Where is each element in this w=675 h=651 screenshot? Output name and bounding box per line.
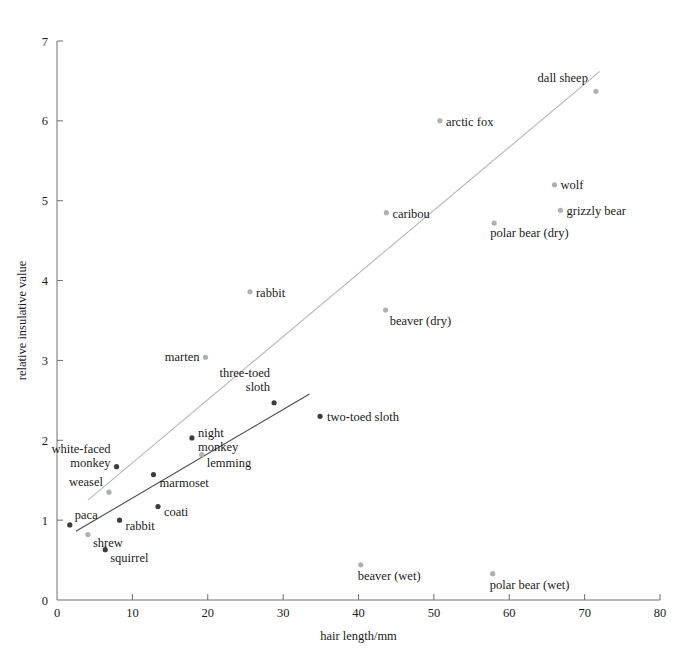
point-label: beaver (wet)	[358, 569, 421, 583]
y-tick-label: 4	[42, 274, 49, 288]
data-point	[67, 522, 72, 527]
scatter-chart: 0102030405060708001234567hair length/mmr…	[0, 0, 675, 651]
point-label: three-toedsloth	[219, 366, 270, 394]
x-tick-label: 10	[126, 606, 139, 620]
y-tick-label: 5	[42, 194, 48, 208]
point-label-line: wolf	[560, 178, 584, 192]
y-tick-label: 7	[42, 35, 48, 49]
point-label: coati	[164, 505, 189, 519]
y-tick-label: 1	[42, 514, 48, 528]
point-label: wolf	[560, 178, 584, 192]
point-label-line: rabbit	[256, 286, 286, 300]
x-axis-title: hair length/mm	[320, 629, 397, 643]
data-point	[151, 472, 156, 477]
x-tick-label: 20	[202, 606, 215, 620]
point-label: squirrel	[110, 551, 149, 565]
point-label: two-toed sloth	[327, 410, 400, 424]
point-label: polar bear (dry)	[490, 226, 568, 240]
point-label: marten	[165, 350, 200, 364]
data-point	[383, 308, 388, 313]
data-point	[189, 435, 194, 440]
point-label-line: polar bear (wet)	[490, 578, 570, 592]
point-label-line: marten	[165, 350, 200, 364]
point-label-line: beaver (wet)	[358, 569, 421, 583]
point-label-line: rabbit	[126, 519, 156, 533]
point-label-line: monkey	[198, 440, 239, 454]
point-label: paca	[75, 508, 98, 522]
point-label-line: squirrel	[110, 551, 149, 565]
point-label: marmoset	[159, 476, 209, 490]
point-label: rabbit	[256, 286, 286, 300]
y-axis-title: relative insulative value	[15, 260, 29, 380]
data-point	[437, 118, 442, 123]
point-label-line: three-toed	[219, 366, 270, 380]
point-label-line: night	[198, 426, 224, 440]
data-point	[103, 547, 108, 552]
data-point	[317, 414, 322, 419]
point-label-line: monkey	[70, 456, 111, 470]
arctic-trendline	[88, 71, 600, 500]
x-tick-label: 50	[428, 606, 441, 620]
point-label-line: caribou	[392, 207, 430, 221]
data-point	[247, 289, 252, 294]
y-tick-label: 3	[42, 354, 48, 368]
point-label-line: shrew	[93, 536, 123, 550]
point-label: weasel	[69, 475, 104, 489]
point-label: dall sheep	[538, 71, 588, 85]
x-tick-label: 60	[503, 606, 516, 620]
point-label-line: lemming	[207, 456, 252, 470]
y-tick-label: 6	[42, 114, 48, 128]
point-label-line: paca	[75, 508, 98, 522]
point-label: white-facedmonkey	[52, 442, 112, 470]
data-point	[552, 182, 557, 187]
y-tick-label: 2	[42, 434, 48, 448]
point-label-line: two-toed sloth	[327, 410, 400, 424]
point-label-line: dall sheep	[538, 71, 588, 85]
data-point	[384, 210, 389, 215]
point-label-line: weasel	[69, 475, 104, 489]
tropical-trendline	[76, 394, 310, 531]
data-point	[593, 89, 598, 94]
data-point	[492, 220, 497, 225]
x-tick-label: 40	[352, 606, 365, 620]
point-label: grizzly bear	[567, 204, 627, 218]
data-point	[117, 518, 122, 523]
data-point	[490, 571, 495, 576]
x-tick-label: 80	[654, 606, 667, 620]
point-label: arctic fox	[446, 115, 494, 129]
point-label-line: sloth	[246, 380, 271, 394]
data-point	[358, 562, 363, 567]
data-point	[106, 490, 111, 495]
point-label: shrew	[93, 536, 123, 550]
x-tick-label: 30	[277, 606, 290, 620]
point-label-line: grizzly bear	[567, 204, 627, 218]
x-tick-label: 70	[578, 606, 591, 620]
data-point	[271, 400, 276, 405]
data-point	[85, 532, 90, 537]
point-label-line: white-faced	[52, 442, 112, 456]
point-label-line: polar bear (dry)	[490, 226, 568, 240]
data-point	[155, 504, 160, 509]
point-label-line: arctic fox	[446, 115, 494, 129]
point-label-line: beaver (dry)	[390, 314, 451, 328]
point-label: lemming	[207, 456, 252, 470]
y-tick-label: 0	[42, 594, 48, 608]
data-point	[203, 355, 208, 360]
point-label: polar bear (wet)	[490, 578, 570, 592]
data-point	[114, 464, 119, 469]
point-label: beaver (dry)	[390, 314, 451, 328]
point-label-line: coati	[164, 505, 189, 519]
point-label: rabbit	[126, 519, 156, 533]
point-label: nightmonkey	[198, 426, 239, 454]
point-label-line: marmoset	[159, 476, 209, 490]
x-tick-label: 0	[54, 606, 60, 620]
plot-area: 0102030405060708001234567hair length/mmr…	[0, 0, 675, 651]
data-point	[558, 208, 563, 213]
point-label: caribou	[392, 207, 430, 221]
